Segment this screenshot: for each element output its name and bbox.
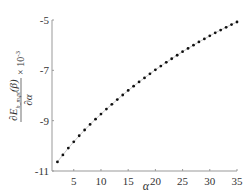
x-tick-label: 25 <box>177 175 189 187</box>
data-point <box>56 161 59 164</box>
data-point <box>61 153 64 156</box>
axes <box>52 20 237 171</box>
data-point <box>181 50 184 53</box>
data-point <box>105 108 108 111</box>
data-point <box>159 65 162 68</box>
data-point <box>176 54 179 57</box>
data-point <box>127 89 130 92</box>
data-point <box>198 40 201 43</box>
data-point <box>89 123 92 126</box>
data-point <box>214 31 217 34</box>
y-tick-label: -5 <box>40 14 50 26</box>
data-point <box>170 57 173 60</box>
svg-text:∂α: ∂α <box>22 94 34 105</box>
data-point <box>149 72 152 75</box>
data-point <box>83 129 86 132</box>
y-tick-label: -7 <box>40 64 50 76</box>
x-tick-label: 5 <box>71 175 77 187</box>
x-tick-label: 30 <box>204 175 216 187</box>
x-tick-label: 10 <box>95 175 107 187</box>
data-point <box>143 76 146 79</box>
svg-text:∂Eh_m,pt(β): ∂Eh_m,pt(β) <box>7 79 21 121</box>
x-tick-label: 15 <box>123 175 135 187</box>
x-tick-label: 20 <box>150 175 162 187</box>
x-axis-label: α <box>143 179 150 192</box>
data-point <box>230 23 233 26</box>
data-point <box>165 61 168 64</box>
y-axis-label: ∂Eh_m,pt(β)∂α× 10-3 <box>7 51 34 122</box>
data-point <box>100 113 103 116</box>
data-point <box>67 147 70 150</box>
svg-text:× 10-3: × 10-3 <box>14 51 26 75</box>
series-line <box>57 22 237 162</box>
data-point <box>203 37 206 40</box>
data-point <box>219 29 222 32</box>
data-point <box>78 134 81 137</box>
x-tick-label: 35 <box>232 175 244 187</box>
data-point <box>138 81 141 84</box>
data-point <box>94 118 97 121</box>
data-point <box>187 47 190 50</box>
y-tick-label: -9 <box>40 115 50 127</box>
data-point <box>72 140 75 143</box>
data-point <box>192 44 195 47</box>
data-point <box>236 21 239 24</box>
y-tick-label: -11 <box>35 165 49 177</box>
data-series <box>56 21 238 164</box>
tick-labels: -11-9-7-55101520253035 <box>35 14 243 187</box>
data-point <box>208 34 211 37</box>
data-point <box>116 98 119 101</box>
data-point <box>110 103 113 106</box>
data-point <box>225 26 228 29</box>
data-point <box>154 68 157 71</box>
data-point <box>121 94 124 97</box>
data-point <box>132 85 135 88</box>
chart: -11-9-7-55101520253035 α ∂Eh_m,pt(β)∂α× … <box>0 0 251 192</box>
